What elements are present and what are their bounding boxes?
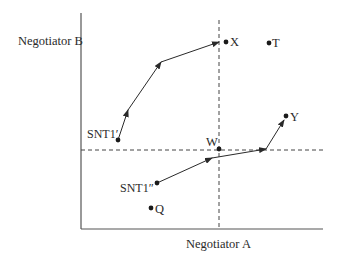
point-t-dot <box>267 41 272 46</box>
point-q-dot <box>149 206 154 211</box>
label-snt1-double-prime: SNT1″ <box>120 181 154 195</box>
label-w: W <box>206 135 218 149</box>
label-snt1-prime: SNT1′ <box>87 127 119 141</box>
negotiation-diagram: Negotiator B Negotiator A X T Y W SNT1′ … <box>0 0 340 262</box>
label-t: T <box>272 36 280 50</box>
path-snt1-prime-to-x <box>118 42 219 140</box>
x-axis-label: Negotiator A <box>186 237 251 251</box>
label-y: Y <box>290 110 299 124</box>
path-snt1-double-prime-to-y <box>157 120 284 183</box>
point-y-dot <box>284 114 289 119</box>
y-axis-label: Negotiator B <box>18 34 83 48</box>
label-x: X <box>230 35 239 49</box>
point-snt1-double-prime-dot <box>155 181 160 186</box>
label-q: Q <box>155 202 164 216</box>
point-x-dot <box>224 40 229 45</box>
axes <box>81 13 323 229</box>
